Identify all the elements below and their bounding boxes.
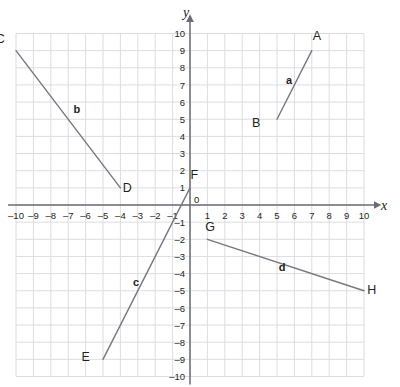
point-label-C: C xyxy=(0,32,5,46)
x-tick-label: 8 xyxy=(327,210,332,221)
coordinate-plot-svg: –10–9–8–7–6–5–4–3–2–1123456789100 109876… xyxy=(0,0,400,387)
x-tick-label: –3 xyxy=(133,210,144,221)
x-tick-label: –5 xyxy=(98,210,109,221)
y-tick-label: –4 xyxy=(174,268,185,279)
tick-labels-group: –10–9–8–7–6–5–4–3–2–1123456789100 xyxy=(8,194,369,222)
point-label-A: A xyxy=(313,29,322,43)
y-tick-label: 10 xyxy=(174,28,185,39)
y-tick-label: 3 xyxy=(180,148,185,159)
y-tick-label: 7 xyxy=(180,80,185,91)
y-tick-label: 8 xyxy=(180,62,185,73)
coordinate-plane-figure: –10–9–8–7–6–5–4–3–2–1123456789100 109876… xyxy=(0,0,400,387)
point-label-D: D xyxy=(123,181,132,195)
y-tick-label: 1 xyxy=(180,182,185,193)
segment-label-c: c xyxy=(133,276,139,288)
y-tick-label: –7 xyxy=(174,320,185,331)
y-tick-label: 4 xyxy=(180,131,185,142)
y-tick-label: –5 xyxy=(174,285,185,296)
x-tick-label: 7 xyxy=(309,210,314,221)
y-tick-label: 2 xyxy=(180,165,185,176)
y-tick-label: –2 xyxy=(174,234,185,245)
x-tick-label: 9 xyxy=(344,210,349,221)
x-tick-label: –6 xyxy=(80,210,91,221)
y-tick-label: –1 xyxy=(174,217,185,228)
point-labels-group: ABCDEFGH xyxy=(0,29,376,365)
x-tick-label: 6 xyxy=(292,210,297,221)
x-tick-label: –4 xyxy=(115,210,126,221)
axes-group xyxy=(8,21,375,385)
y-tick-label: –3 xyxy=(174,251,185,262)
y-tick-label: 6 xyxy=(180,97,185,108)
x-tick-label: –2 xyxy=(150,210,161,221)
point-label-H: H xyxy=(367,283,376,297)
origin-label: 0 xyxy=(194,194,199,205)
line-segment-d xyxy=(207,239,364,290)
segment-label-a: a xyxy=(286,74,293,86)
segment-label-b: b xyxy=(74,103,81,115)
axis-names-group: xy xyxy=(181,5,388,214)
segment-label-d: d xyxy=(279,261,286,273)
point-label-F: F xyxy=(191,168,199,182)
y-tick-label: –6 xyxy=(174,303,185,314)
x-axis-name: x xyxy=(380,198,388,213)
point-label-G: G xyxy=(205,220,215,234)
x-tick-label: –10 xyxy=(8,210,24,221)
y-tick-label: 5 xyxy=(180,114,185,125)
x-tick-label: 5 xyxy=(274,210,279,221)
x-tick-label: –9 xyxy=(28,210,39,221)
x-tick-label: 2 xyxy=(222,210,227,221)
x-tick-label: 3 xyxy=(240,210,245,221)
x-tick-label: –7 xyxy=(63,210,74,221)
x-tick-label: –8 xyxy=(46,210,57,221)
y-tick-label: –10 xyxy=(169,371,185,382)
y-tick-label: 9 xyxy=(180,45,185,56)
y-tick-label: –8 xyxy=(174,337,185,348)
y-axis-name: y xyxy=(181,5,190,20)
x-tick-label: 4 xyxy=(257,210,262,221)
point-label-B: B xyxy=(252,116,260,130)
x-tick-label: 10 xyxy=(359,210,370,221)
y-tick-label: –9 xyxy=(174,354,185,365)
point-label-E: E xyxy=(81,350,89,364)
